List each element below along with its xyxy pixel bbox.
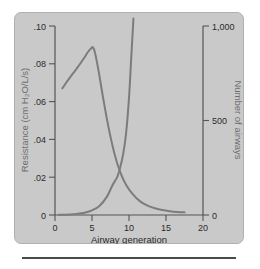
right-tick-label-2: 1,000 bbox=[212, 22, 235, 32]
x-axis-ticks bbox=[55, 215, 203, 221]
right-tick-label-1: 500 bbox=[212, 116, 227, 126]
x-tick-label-2: 10 bbox=[124, 223, 134, 233]
left-tick-label-2: .04 bbox=[33, 135, 46, 145]
left-axis-ticks bbox=[49, 26, 55, 215]
x-tick-label-4: 20 bbox=[198, 223, 208, 233]
x-axis-title: Airway generation bbox=[91, 234, 167, 244]
left-axis-title: Resistance (cm H₂O/L/s) bbox=[19, 68, 30, 173]
airways-curve bbox=[59, 18, 134, 214]
left-tick-label-5: .10 bbox=[33, 22, 46, 32]
figure-container: .10 .08 .06 .04 .02 0 1,000 500 0 0 5 10… bbox=[0, 0, 260, 269]
x-tick-label-1: 5 bbox=[89, 223, 94, 233]
resistance-curve bbox=[62, 47, 184, 212]
bottom-rule bbox=[22, 257, 236, 259]
left-tick-label-4: .08 bbox=[33, 59, 46, 69]
left-tick-label-1: .02 bbox=[33, 173, 46, 183]
chart-plot: .10 .08 .06 .04 .02 0 1,000 500 0 0 5 10… bbox=[14, 12, 244, 244]
right-axis-title: Number of airways bbox=[233, 80, 244, 159]
x-tick-label-0: 0 bbox=[52, 223, 57, 233]
left-tick-label-3: .06 bbox=[33, 97, 46, 107]
x-tick-label-3: 15 bbox=[161, 223, 171, 233]
left-tick-label-0: 0 bbox=[41, 211, 46, 221]
right-tick-label-0: 0 bbox=[212, 211, 217, 221]
right-axis-ticks bbox=[203, 26, 209, 215]
